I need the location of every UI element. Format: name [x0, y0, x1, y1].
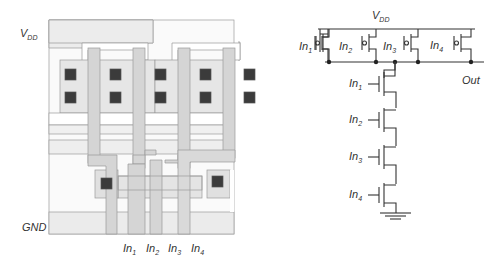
nmos-in3-label: In3	[349, 150, 362, 164]
output-label: Out	[462, 74, 481, 86]
nmos-4	[368, 183, 396, 213]
schematic-vdd-label: VDD	[372, 9, 389, 23]
poly-in2	[133, 48, 145, 168]
pmos-in2-label: In2	[339, 40, 352, 54]
layout-gnd-label: GND	[22, 221, 47, 233]
nmos-2	[368, 108, 396, 146]
ground-icon	[380, 213, 411, 219]
pmos-3	[404, 29, 418, 62]
nmos-3	[368, 145, 396, 184]
nmos-in1-label: In1	[349, 77, 362, 91]
pmos-1	[315, 29, 328, 62]
pmos-2	[362, 29, 376, 62]
layout-in1-label: In1	[123, 242, 136, 256]
pmos-in4-label: In4	[430, 39, 443, 53]
layout-in2-label: In2	[146, 242, 159, 256]
layout-in4-label: In4	[191, 242, 204, 256]
nmos-1	[368, 62, 396, 108]
layout-visible	[46, 16, 255, 238]
layout-in3-label: In3	[168, 242, 181, 256]
nmos-in4-label: In4	[349, 188, 362, 202]
nor4-diagram: VDD GND In1 In2 In3 In4	[0, 0, 501, 268]
schematic	[315, 29, 484, 219]
pmos-in1-label: In1	[299, 40, 312, 54]
pmos-4	[454, 29, 471, 62]
poly-in4	[223, 48, 235, 158]
vdd-rail	[49, 20, 153, 43]
poly-in1	[88, 48, 100, 163]
schematic-labels: VDD In1 In2 In3 In4 Out In1 In2 In3 In4	[299, 9, 481, 202]
pmos-in3-label: In3	[383, 40, 396, 54]
layout-vdd-label: VDD	[20, 27, 37, 41]
nmos-in2-label: In2	[349, 113, 362, 127]
